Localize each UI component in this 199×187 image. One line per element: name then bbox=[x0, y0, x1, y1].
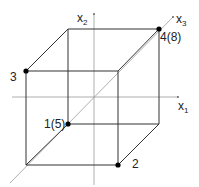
vertex-2-label: 2 bbox=[132, 157, 139, 171]
vertex-3-label: 3 bbox=[10, 70, 17, 84]
x1-axis-tip bbox=[177, 96, 179, 98]
x2-axis-tip bbox=[93, 13, 95, 15]
x3-axis-tip bbox=[172, 16, 174, 18]
x3-axis-label: x3 bbox=[176, 12, 187, 28]
edge-top-right-depth bbox=[118, 29, 159, 71]
x1-axis-label: x1 bbox=[178, 99, 189, 115]
vertex-4-label: 4(8) bbox=[160, 30, 181, 44]
vertex-1-label: 1(5) bbox=[44, 117, 65, 131]
vertex-2-marker bbox=[115, 162, 120, 167]
x3-axis bbox=[10, 17, 173, 183]
cube-diagram: x2 x1 x3 1(5) 2 3 4(8) bbox=[0, 0, 199, 187]
edge-top-left-depth bbox=[26, 29, 68, 71]
vertex-3-marker bbox=[23, 68, 28, 73]
vertex-1-marker bbox=[65, 121, 70, 126]
x2-axis-label: x2 bbox=[77, 11, 88, 27]
